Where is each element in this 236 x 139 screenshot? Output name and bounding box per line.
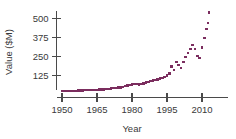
data-point xyxy=(142,82,144,84)
x-axis: 19501965198019952010 xyxy=(51,93,228,115)
data-point xyxy=(131,83,133,85)
x-tick-label: 1965 xyxy=(86,104,107,115)
data-point xyxy=(133,83,135,85)
data-point xyxy=(182,61,184,63)
data-point xyxy=(103,88,105,90)
data-point xyxy=(175,61,177,63)
data-point xyxy=(177,64,179,66)
y-tick-label: 250 xyxy=(33,51,49,62)
data-point xyxy=(77,89,79,91)
x-tick-label: 2010 xyxy=(191,104,212,115)
data-point xyxy=(110,87,112,89)
data-point xyxy=(89,89,91,91)
data-point xyxy=(208,11,210,13)
data-point xyxy=(70,90,72,92)
data-point xyxy=(184,56,186,58)
data-point xyxy=(72,90,74,92)
data-point xyxy=(121,86,123,88)
data-point xyxy=(140,83,142,85)
chart-plot: 125250375500 19501965198019952010 YearVa… xyxy=(0,0,236,139)
x-tick-label: 1980 xyxy=(121,104,142,115)
data-point xyxy=(180,67,182,69)
data-point xyxy=(149,80,151,82)
y-tick-label: 125 xyxy=(33,70,49,81)
data-point xyxy=(84,89,86,91)
data-point xyxy=(126,84,128,86)
data-point xyxy=(68,90,70,92)
data-point xyxy=(79,89,81,91)
data-point xyxy=(156,78,158,80)
data-point xyxy=(100,88,102,90)
data-point xyxy=(191,44,193,46)
x-axis-title: Year xyxy=(122,123,141,134)
data-point xyxy=(128,84,130,86)
data-point xyxy=(196,55,198,57)
data-point xyxy=(65,90,67,92)
data-point xyxy=(96,89,98,91)
data-point xyxy=(154,79,156,81)
data-point xyxy=(135,83,137,85)
data-point xyxy=(207,22,209,24)
data-point xyxy=(112,87,114,89)
data-point xyxy=(205,28,207,30)
data-point xyxy=(91,89,93,91)
data-point xyxy=(75,90,77,92)
data-point xyxy=(107,88,109,90)
axis-titles: YearValue ($M) xyxy=(3,29,142,134)
data-point xyxy=(203,37,205,39)
data-point xyxy=(105,88,107,90)
data-point xyxy=(189,48,191,50)
data-point xyxy=(187,52,189,54)
data-point xyxy=(152,79,154,81)
y-tick-label: 375 xyxy=(33,32,49,43)
data-point xyxy=(168,72,170,74)
data-point xyxy=(166,74,168,76)
data-series-value xyxy=(61,11,210,92)
data-point xyxy=(138,83,140,85)
chart-figure: 125250375500 19501965198019952010 YearVa… xyxy=(0,0,236,139)
data-point xyxy=(201,46,203,48)
data-point xyxy=(145,81,147,83)
data-point xyxy=(147,81,149,83)
data-point xyxy=(93,89,95,91)
y-axis-title: Value ($M) xyxy=(3,29,14,75)
data-point xyxy=(161,77,163,79)
data-point xyxy=(86,89,88,91)
data-point xyxy=(198,57,200,59)
x-tick-label: 1995 xyxy=(156,104,177,115)
data-point xyxy=(194,48,196,50)
data-point xyxy=(163,76,165,78)
y-tick-label: 500 xyxy=(33,13,49,24)
data-point xyxy=(173,69,175,71)
data-point xyxy=(124,85,126,87)
data-point xyxy=(114,87,116,89)
x-tick-label: 1950 xyxy=(51,104,72,115)
data-point xyxy=(61,90,63,92)
data-point xyxy=(170,65,172,67)
data-point xyxy=(98,88,100,90)
y-axis: 125250375500 xyxy=(33,11,61,90)
data-point xyxy=(119,86,121,88)
data-point xyxy=(159,77,161,79)
data-point xyxy=(117,86,119,88)
data-point xyxy=(63,90,65,92)
data-point xyxy=(82,89,84,91)
